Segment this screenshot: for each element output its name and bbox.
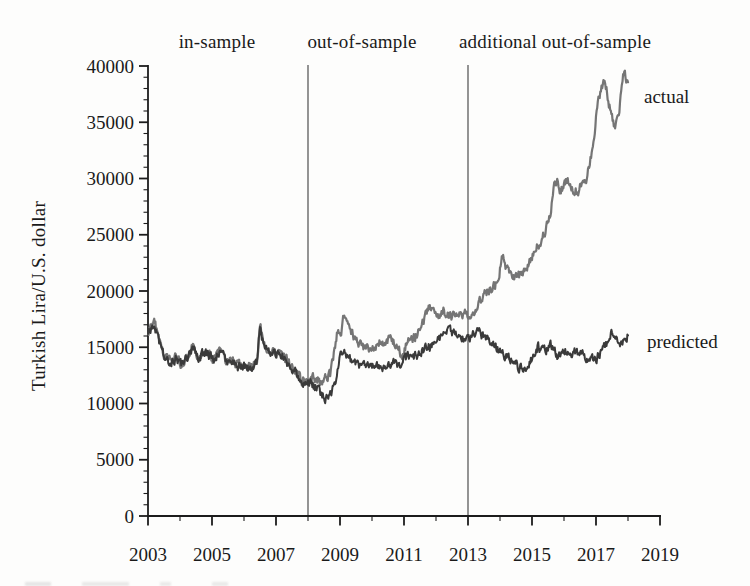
x-tick-label: 2017 [577,544,615,565]
cropped-caption-remnant [25,582,285,586]
y-tick-label: 0 [125,506,135,527]
y-tick-label: 25000 [87,224,135,245]
x-tick-label: 2015 [513,544,551,565]
x-tick-label: 2011 [385,544,422,565]
x-tick-label: 2019 [641,544,679,565]
x-tick-label: 2005 [193,544,231,565]
y-tick-label: 40000 [87,56,135,77]
y-tick-label: 10000 [87,393,135,414]
y-tick-label: 35000 [87,112,135,133]
y-tick-label: 15000 [87,337,135,358]
y-tick-label: 30000 [87,168,135,189]
plot-area: 0500010000150002000025000300003500040000… [0,0,750,586]
exchange-rate-forecast-figure: in-sample out-of-sample additional out-o… [0,0,750,586]
x-tick-label: 2007 [257,544,295,565]
y-tick-label: 20000 [87,281,135,302]
x-tick-label: 2013 [449,544,487,565]
x-tick-label: 2009 [321,544,359,565]
x-tick-label: 2003 [129,544,167,565]
actual-series-line [148,71,628,386]
y-tick-label: 5000 [96,449,134,470]
